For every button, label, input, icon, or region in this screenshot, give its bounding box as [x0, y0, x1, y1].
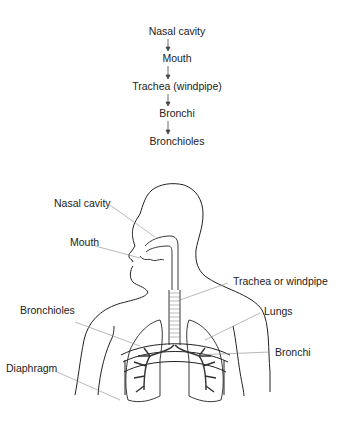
- label-trachea: Trachea or windpipe: [233, 275, 328, 287]
- bronchi-tree: [134, 345, 216, 392]
- airway: [140, 236, 180, 345]
- label-diaphragm: Diaphragm: [6, 362, 57, 374]
- label-bronchi: Bronchi: [275, 346, 311, 358]
- body-outline: [75, 184, 270, 396]
- label-lungs: Lungs: [264, 305, 293, 317]
- leader-lines: [55, 205, 270, 400]
- label-bronchioles: Bronchioles: [20, 304, 75, 316]
- label-mouth: Mouth: [70, 236, 99, 248]
- trachea-rings: [169, 293, 180, 337]
- flow-arrows: [166, 39, 170, 134]
- label-nasal-cavity: Nasal cavity: [54, 197, 111, 209]
